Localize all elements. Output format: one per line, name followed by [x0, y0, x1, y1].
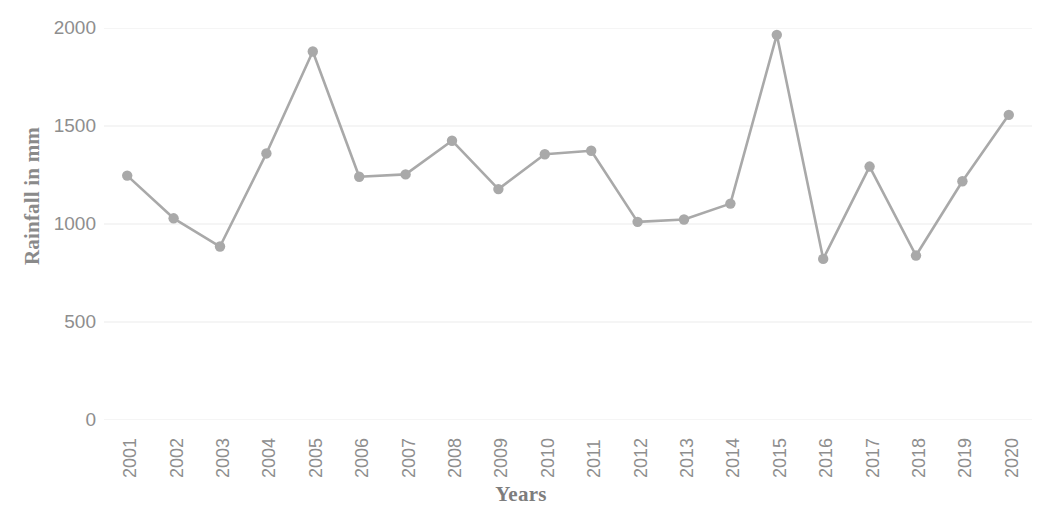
data-line: [127, 35, 1009, 259]
x-tick-label-2020: 2020: [1001, 418, 1023, 478]
x-axis-title: Years: [0, 482, 1042, 507]
data-point-2005: [308, 46, 318, 56]
x-tick-label-2017: 2017: [862, 418, 884, 478]
data-point-2004: [261, 148, 271, 158]
y-tick-label-0: 0: [34, 409, 96, 431]
y-tick-label-500: 500: [34, 311, 96, 333]
data-point-2011: [586, 146, 596, 156]
plot-area: [104, 28, 1032, 420]
x-tick-label-2016: 2016: [815, 418, 837, 478]
x-tick-label-2015: 2015: [769, 418, 791, 478]
data-point-2006: [354, 172, 364, 182]
data-point-2017: [864, 161, 874, 171]
data-point-2013: [679, 214, 689, 224]
data-point-2014: [725, 198, 735, 208]
y-tick-label-1000: 1000: [34, 213, 96, 235]
x-tick-label-2003: 2003: [212, 418, 234, 478]
x-axis-tick-labels: 2001200220032004200520062007200820092010…: [104, 420, 1032, 480]
x-tick-label-2013: 2013: [676, 418, 698, 478]
x-tick-label-2010: 2010: [537, 418, 559, 478]
data-point-2015: [772, 30, 782, 40]
x-tick-label-2012: 2012: [630, 418, 652, 478]
x-tick-label-2006: 2006: [351, 418, 373, 478]
data-markers: [122, 30, 1014, 264]
data-point-2012: [632, 217, 642, 227]
data-point-2002: [168, 213, 178, 223]
data-point-2009: [493, 184, 503, 194]
x-tick-label-2004: 2004: [258, 418, 280, 478]
gridlines: [104, 28, 1032, 420]
x-tick-label-2008: 2008: [444, 418, 466, 478]
x-tick-label-2001: 2001: [119, 418, 141, 478]
data-point-2001: [122, 170, 132, 180]
data-point-2010: [540, 149, 550, 159]
data-point-2018: [911, 250, 921, 260]
x-tick-label-2018: 2018: [908, 418, 930, 478]
rainfall-line-chart: Rainfall in mm 0500100015002000 20012002…: [0, 0, 1042, 532]
x-tick-label-2009: 2009: [490, 418, 512, 478]
y-axis-tick-labels: 0500100015002000: [24, 0, 96, 532]
plot-svg: [104, 28, 1032, 420]
data-point-2008: [447, 136, 457, 146]
x-tick-label-2007: 2007: [398, 418, 420, 478]
y-tick-label-1500: 1500: [34, 115, 96, 137]
data-point-2020: [1004, 110, 1014, 120]
x-tick-label-2014: 2014: [722, 418, 744, 478]
data-point-2019: [957, 176, 967, 186]
x-tick-label-2002: 2002: [166, 418, 188, 478]
data-point-2003: [215, 241, 225, 251]
x-tick-label-2019: 2019: [954, 418, 976, 478]
data-point-2016: [818, 254, 828, 264]
x-tick-label-2011: 2011: [583, 418, 605, 478]
x-tick-label-2005: 2005: [305, 418, 327, 478]
data-point-2007: [400, 169, 410, 179]
y-tick-label-2000: 2000: [34, 17, 96, 39]
